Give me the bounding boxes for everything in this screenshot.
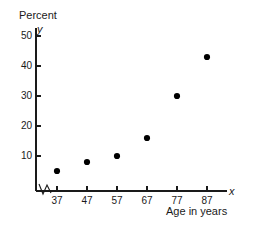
x-tick-label: 87 [195, 196, 219, 206]
x-tick-label: 77 [165, 196, 189, 206]
data-point [204, 54, 210, 60]
plot-area [0, 0, 259, 225]
x-tick-label: 37 [45, 196, 69, 206]
y-tick-label: 30 [10, 91, 32, 101]
data-point [84, 159, 90, 165]
data-point [54, 168, 60, 174]
data-point [174, 93, 180, 99]
y-tick-label: 50 [10, 31, 32, 41]
data-point [144, 135, 150, 141]
x-tick-label: 67 [135, 196, 159, 206]
axis-break-symbol [39, 184, 51, 194]
y-tick-label: 10 [10, 151, 32, 161]
y-tick-label: 40 [10, 61, 32, 71]
x-tick-label: 57 [105, 196, 129, 206]
y-tick-label: 20 [10, 121, 32, 131]
scatter-chart: Percent y Age in years x 1020304050 3747… [0, 0, 259, 225]
data-point-markers [54, 54, 210, 174]
tick-marks [36, 36, 207, 191]
x-tick-label: 47 [75, 196, 99, 206]
axis-lines [36, 28, 227, 191]
data-point [114, 153, 120, 159]
